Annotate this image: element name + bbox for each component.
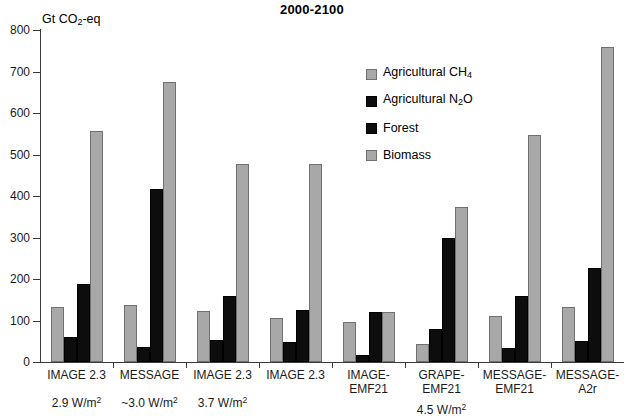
bar <box>77 284 90 362</box>
forcing-annotation: 4.5 W/m2 <box>405 400 478 416</box>
y-tick-label: 100 <box>0 315 30 327</box>
y-tick-label: 700 <box>0 66 30 78</box>
y-axis-unit-label: Gt CO2-eq <box>42 12 101 27</box>
y-tick-label: 200 <box>0 273 30 285</box>
bar <box>382 312 395 362</box>
bar <box>442 238 455 363</box>
bar <box>455 207 468 362</box>
forcing-annotation: 2.9 W/m2 <box>40 393 113 410</box>
y-tick-label: 300 <box>0 232 30 244</box>
bar <box>309 164 322 362</box>
bar <box>51 307 64 362</box>
legend-swatch-icon <box>366 123 377 134</box>
legend-label: Agricultural N2O <box>383 93 473 109</box>
bar <box>124 305 137 362</box>
y-tick-label: 0 <box>0 356 30 368</box>
y-tick-label: 800 <box>0 24 30 36</box>
bar <box>429 329 442 362</box>
bar <box>575 341 588 362</box>
bar-group <box>197 30 249 362</box>
forcing-annotation: ~3.0 W/m2 <box>113 393 186 410</box>
legend-item[interactable]: Forest <box>366 116 473 140</box>
x-category-label: MESSAGE <box>113 368 186 382</box>
bar <box>197 311 210 362</box>
legend-item[interactable]: Biomass <box>366 143 473 167</box>
bar <box>163 82 176 362</box>
bar-group <box>51 30 103 362</box>
bar <box>223 296 236 362</box>
bar-group <box>124 30 176 362</box>
bar <box>137 347 150 362</box>
x-category-label: IMAGE 2.3 <box>259 368 332 382</box>
bar <box>416 344 429 362</box>
bar <box>369 312 382 362</box>
bar <box>283 342 296 362</box>
x-category-label: MESSAGE- EMF21 <box>478 368 551 396</box>
bar <box>601 47 614 362</box>
bar <box>502 348 515 362</box>
bar-group <box>489 30 541 362</box>
bar <box>90 131 103 362</box>
x-category-label: GRAPE- EMF21 <box>405 368 478 396</box>
x-category-label: MESSAGE- A2r <box>551 368 624 396</box>
legend-swatch-icon <box>366 96 377 107</box>
bar <box>588 268 601 362</box>
legend-label: Biomass <box>383 149 431 162</box>
legend-item[interactable]: Agricultural N2O <box>366 89 473 113</box>
y-tick-label: 400 <box>0 190 30 202</box>
y-tick-label: 600 <box>0 107 30 119</box>
bar-chart: 2000-2100 Gt CO2-eq 01002003004005006007… <box>0 0 624 416</box>
bar <box>64 337 77 362</box>
plot-area <box>40 30 624 362</box>
x-category-label: IMAGE 2.3 <box>186 368 259 382</box>
x-category-label: IMAGE- EMF21 <box>332 368 405 396</box>
x-category-label: IMAGE 2.3 <box>40 368 113 382</box>
legend-swatch-icon <box>366 69 377 80</box>
y-tick-mark <box>33 362 41 363</box>
bar <box>343 322 356 362</box>
bar <box>562 307 575 362</box>
legend-swatch-icon <box>366 150 377 161</box>
forcing-annotation: 3.7 W/m2 <box>186 393 259 410</box>
bar <box>210 340 223 362</box>
legend-label: Agricultural CH4 <box>383 66 472 82</box>
legend-item[interactable]: Agricultural CH4 <box>366 62 473 86</box>
legend-label: Forest <box>383 122 418 135</box>
bar <box>270 318 283 362</box>
bar <box>150 189 163 362</box>
bar <box>296 310 309 362</box>
bar <box>236 164 249 362</box>
bar <box>528 135 541 362</box>
bar-group <box>562 30 614 362</box>
bar-group <box>270 30 322 362</box>
bar <box>515 296 528 362</box>
chart-legend: Agricultural CH4Agricultural N2OForestBi… <box>366 62 473 170</box>
bar <box>356 355 369 362</box>
bar <box>489 316 502 362</box>
y-tick-label: 500 <box>0 149 30 161</box>
